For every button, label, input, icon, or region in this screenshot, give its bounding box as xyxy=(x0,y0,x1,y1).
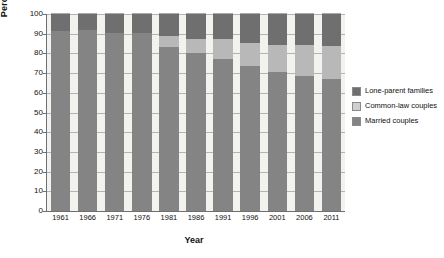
stacked-bar[interactable] xyxy=(322,14,342,211)
y-axis-tickmark xyxy=(43,211,47,212)
bar-slot: 1976 xyxy=(128,14,155,211)
bar-slot: 1991 xyxy=(210,14,237,211)
legend-item[interactable]: Common-law couples xyxy=(352,101,444,111)
legend-item-label: Married couples xyxy=(365,116,444,126)
bar-slot: 1961 xyxy=(47,14,74,211)
bar-segment[interactable] xyxy=(78,14,98,30)
x-axis-tick-label: 1966 xyxy=(74,213,101,222)
bar-slot: 1996 xyxy=(237,14,264,211)
bar-segment[interactable] xyxy=(213,39,233,59)
x-axis-tick-label: 1961 xyxy=(47,213,74,222)
legend-swatch-icon xyxy=(352,87,361,96)
bar-segment[interactable] xyxy=(51,31,71,211)
bar-slot: 2001 xyxy=(264,14,291,211)
legend-swatch-icon xyxy=(352,102,361,111)
stacked-bar[interactable] xyxy=(213,14,233,211)
x-axis-tick-label: 1986 xyxy=(182,213,209,222)
bar-segment[interactable] xyxy=(268,45,288,72)
bar-segment[interactable] xyxy=(295,76,315,211)
y-axis-tick-label: 80 xyxy=(34,52,43,53)
x-axis-tick-label: 2006 xyxy=(291,213,318,222)
x-axis-tick-label: 2001 xyxy=(264,213,291,222)
bar-segment[interactable] xyxy=(322,46,342,79)
bar-segment[interactable] xyxy=(240,66,260,211)
y-axis-tick-label: 10 xyxy=(34,190,43,191)
bar-segment[interactable] xyxy=(159,14,179,36)
stacked-bar[interactable] xyxy=(159,14,179,211)
bar-segment[interactable] xyxy=(186,14,206,39)
stacked-bar[interactable] xyxy=(105,14,125,211)
bar-group: 1961196619711976198119861991199620012006… xyxy=(47,14,345,211)
legend-item[interactable]: Married couples xyxy=(352,116,444,126)
bar-segment[interactable] xyxy=(186,39,206,53)
legend-item-label: Common-law couples xyxy=(365,101,444,111)
y-axis-tick-label: 60 xyxy=(34,92,43,93)
x-axis-tick-label: 1996 xyxy=(237,213,264,222)
bar-segment[interactable] xyxy=(240,14,260,43)
bar-segment[interactable] xyxy=(159,47,179,211)
bar-slot: 1971 xyxy=(101,14,128,211)
y-axis-tick-label: 30 xyxy=(34,151,43,152)
legend-swatch-icon xyxy=(352,117,361,126)
bar-segment[interactable] xyxy=(213,14,233,39)
bar-segment[interactable] xyxy=(268,72,288,211)
bar-segment[interactable] xyxy=(268,14,288,45)
y-axis-tick-label: 100 xyxy=(30,13,43,14)
bar-segment[interactable] xyxy=(51,14,71,31)
bar-slot: 2006 xyxy=(291,14,318,211)
legend-item-label: Lone-parent families xyxy=(365,86,444,96)
legend-item[interactable]: Lone-parent families xyxy=(352,86,444,96)
stacked-bar[interactable] xyxy=(51,14,71,211)
y-axis-tick-label: 90 xyxy=(34,33,43,34)
x-axis-title: Year xyxy=(44,235,344,245)
x-axis-tick-label: 1981 xyxy=(155,213,182,222)
bar-segment[interactable] xyxy=(213,59,233,211)
bar-slot: 1986 xyxy=(182,14,209,211)
bar-segment[interactable] xyxy=(105,33,125,211)
plot-area: 0102030405060708090100 19611966197119761… xyxy=(46,14,345,212)
x-axis-tick-label: 2011 xyxy=(318,213,345,222)
x-axis-tick-label: 1991 xyxy=(210,213,237,222)
y-axis-tick-label: 0 xyxy=(39,210,43,211)
stacked-bar[interactable] xyxy=(186,14,206,211)
x-axis-tick-label: 1971 xyxy=(101,213,128,222)
y-axis-tick-label: 40 xyxy=(34,131,43,132)
bar-segment[interactable] xyxy=(322,14,342,46)
bar-slot: 2011 xyxy=(318,14,345,211)
bar-slot: 1966 xyxy=(74,14,101,211)
bar-segment[interactable] xyxy=(240,43,260,66)
bar-segment[interactable] xyxy=(132,14,152,33)
chart-figure: Percentage 0102030405060708090100 196119… xyxy=(0,0,444,258)
stacked-bar[interactable] xyxy=(240,14,260,211)
bar-segment[interactable] xyxy=(105,14,125,33)
y-axis-tick-label: 50 xyxy=(34,112,43,113)
x-axis-tick-label: 1976 xyxy=(128,213,155,222)
bar-segment[interactable] xyxy=(186,53,206,211)
bar-slot: 1981 xyxy=(155,14,182,211)
bar-segment[interactable] xyxy=(295,45,315,76)
bar-segment[interactable] xyxy=(295,14,315,45)
stacked-bar[interactable] xyxy=(78,14,98,211)
bar-segment[interactable] xyxy=(159,36,179,47)
bar-segment[interactable] xyxy=(322,79,342,211)
stacked-bar[interactable] xyxy=(268,14,288,211)
y-axis-tick-label: 70 xyxy=(34,72,43,73)
y-axis-tick-label: 20 xyxy=(34,171,43,172)
stacked-bar[interactable] xyxy=(132,14,152,211)
y-axis-title: Percentage xyxy=(0,0,9,52)
bar-segment[interactable] xyxy=(132,33,152,211)
legend: Lone-parent familiesCommon-law couplesMa… xyxy=(352,86,444,131)
stacked-bar[interactable] xyxy=(295,14,315,211)
bar-segment[interactable] xyxy=(78,30,98,211)
